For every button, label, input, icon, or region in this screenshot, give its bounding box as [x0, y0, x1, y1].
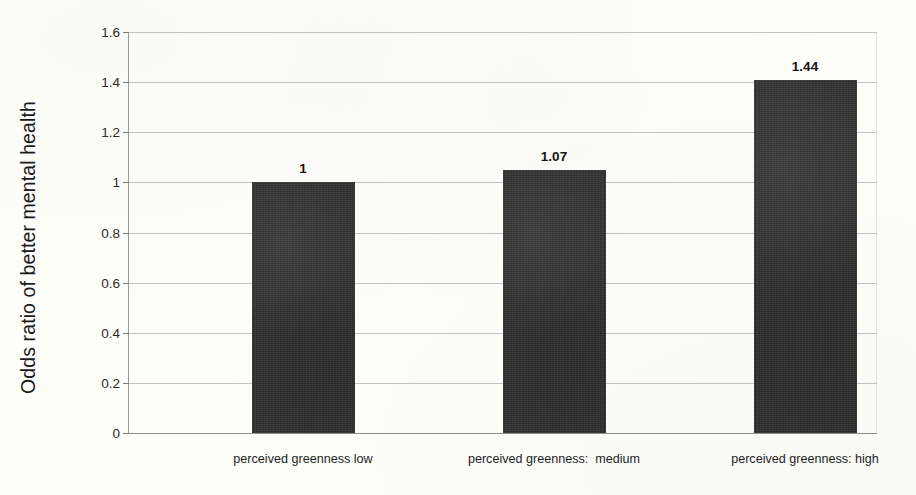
y-tick-mark [123, 333, 129, 334]
bar [252, 182, 355, 433]
y-tick-label: 1.6 [76, 25, 120, 40]
bar-value-label: 1.44 [792, 59, 818, 74]
y-tick-label: 0 [76, 426, 120, 441]
y-tick-label: 0.4 [76, 325, 120, 340]
y-tick-label: 0.2 [76, 375, 120, 390]
y-tick-mark [123, 182, 129, 183]
y-axis-tick-labels: 00.20.40.60.811.21.41.6 [72, 32, 120, 433]
y-tick-mark [123, 233, 129, 234]
y-tick-label: 1 [76, 175, 120, 190]
gridline [128, 433, 877, 434]
y-tick-label: 0.6 [76, 275, 120, 290]
y-tick-label: 1.2 [76, 125, 120, 140]
y-tick-mark [123, 32, 129, 33]
y-axis-title: Odds ratio of better mental health [0, 0, 56, 495]
x-axis-category-labels: perceived greenness lowperceived greenne… [128, 452, 877, 474]
x-category-label: perceived greenness: high [731, 452, 879, 466]
y-tick-mark [123, 132, 129, 133]
bar-value-label: 1.07 [541, 149, 567, 164]
plot-area: 11.071.44 [128, 32, 877, 433]
x-category-label: perceived greenness low [233, 452, 372, 466]
bar [503, 170, 606, 433]
y-tick-label: 1.4 [76, 75, 120, 90]
bar-value-label: 1 [299, 161, 307, 176]
y-tick-mark [123, 283, 129, 284]
y-tick-mark [123, 433, 129, 434]
y-tick-label: 0.8 [76, 225, 120, 240]
gridline [128, 32, 877, 33]
x-category-label: perceived greenness: medium [468, 452, 640, 466]
y-tick-mark [123, 82, 129, 83]
bar [754, 80, 857, 433]
y-tick-mark [123, 383, 129, 384]
chart-figure: Odds ratio of better mental health 00.20… [0, 0, 916, 495]
